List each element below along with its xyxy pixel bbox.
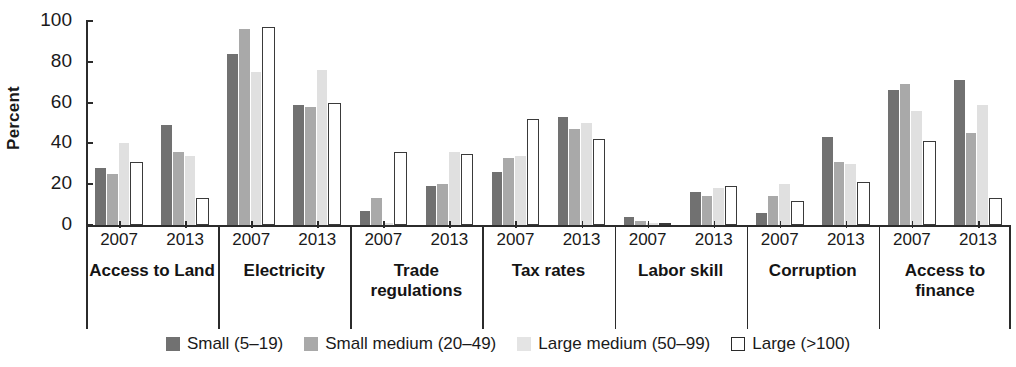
bar xyxy=(857,182,870,225)
bar xyxy=(779,184,790,225)
x-axis-tick-mark xyxy=(383,221,385,228)
bar xyxy=(635,221,646,225)
bar-group-labor-skill xyxy=(615,21,747,225)
x-axis-year-label: 2013 xyxy=(284,230,350,250)
bar xyxy=(624,217,635,225)
bar xyxy=(659,223,672,225)
bar-cluster xyxy=(558,21,606,225)
bar xyxy=(923,141,936,225)
category-label-line1: Tax rates xyxy=(482,261,614,281)
bar xyxy=(845,164,856,225)
bar xyxy=(492,172,503,225)
bar xyxy=(119,143,130,225)
category-label: Electricity xyxy=(218,261,350,281)
x-axis-year-label: 2007 xyxy=(218,230,284,250)
category-block-trade-regulations: 20072013Traderegulations xyxy=(350,227,482,329)
legend-item: Large medium (50–99) xyxy=(517,334,710,354)
bar xyxy=(371,198,382,225)
bar xyxy=(161,125,172,225)
category-label-line1: Electricity xyxy=(218,261,350,281)
bar-cluster xyxy=(426,21,474,225)
category-block-corruption: 20072013Corruption xyxy=(747,227,879,329)
legend-swatch-icon xyxy=(304,337,318,351)
x-axis-tick-mark xyxy=(978,221,980,228)
bar-subgroup-2013 xyxy=(152,21,218,225)
bar-cluster xyxy=(954,21,1002,225)
subcategory-labels: 20072013 xyxy=(350,230,482,250)
bar-subgroup-2007 xyxy=(350,21,416,225)
plot-area: 100806040200 xyxy=(86,21,1011,225)
legend-item: Small medium (20–49) xyxy=(304,334,496,354)
bar xyxy=(360,211,371,225)
x-axis-tick-mark xyxy=(780,221,782,228)
bar xyxy=(185,156,196,225)
bar xyxy=(581,123,592,225)
bar-subgroup-2013 xyxy=(813,21,879,225)
category-label-line1: Access to Land xyxy=(86,261,218,281)
bar xyxy=(977,105,988,225)
category-label: Corruption xyxy=(747,261,879,281)
category-label: Access to Land xyxy=(86,261,218,281)
bar-cluster xyxy=(690,21,738,225)
bar-cluster xyxy=(360,21,408,225)
x-axis-year-label: 2007 xyxy=(879,230,945,250)
bar-cluster xyxy=(227,21,275,225)
x-axis-year-label: 2007 xyxy=(747,230,813,250)
bar xyxy=(293,105,304,225)
bar-group-corruption xyxy=(747,21,879,225)
x-axis-tick-mark xyxy=(912,221,914,228)
bar xyxy=(558,117,569,225)
bar xyxy=(394,152,407,225)
bar xyxy=(317,70,328,225)
x-axis-year-label: 2007 xyxy=(482,230,548,250)
bar-cluster xyxy=(756,21,804,225)
bar-subgroup-2013 xyxy=(416,21,482,225)
y-axis-tick-label: 0 xyxy=(61,213,72,235)
bar xyxy=(593,139,606,225)
bar xyxy=(328,103,341,225)
bar-cluster xyxy=(888,21,936,225)
bar xyxy=(527,119,540,225)
bar xyxy=(791,201,804,225)
legend-swatch-icon xyxy=(517,337,531,351)
bar-group-trade-regulations xyxy=(350,21,482,225)
y-axis-tick-label: 40 xyxy=(51,131,72,153)
x-axis-tick-mark xyxy=(515,221,517,228)
bar-subgroup-2007 xyxy=(86,21,152,225)
legend-label: Large (>100) xyxy=(752,334,850,354)
y-axis-tick-label: 80 xyxy=(51,50,72,72)
bar xyxy=(713,188,724,225)
bar xyxy=(690,192,701,225)
bar xyxy=(251,72,262,225)
bar xyxy=(196,198,209,225)
bar xyxy=(725,186,738,225)
category-block-electricity: 20072013Electricity xyxy=(218,227,350,329)
subcategory-labels: 20072013 xyxy=(218,230,350,250)
bar-subgroup-2013 xyxy=(548,21,614,225)
x-axis-year-label: 2013 xyxy=(549,230,615,250)
y-axis-tick-label: 60 xyxy=(51,91,72,113)
bar xyxy=(227,54,238,225)
subcategory-labels: 20072013 xyxy=(747,230,879,250)
x-axis-year-label: 2013 xyxy=(416,230,482,250)
x-axis-year-label: 2007 xyxy=(86,230,152,250)
legend-label: Small (5–19) xyxy=(187,334,283,354)
bar xyxy=(449,152,460,225)
legend-swatch-icon xyxy=(731,337,745,351)
bar xyxy=(834,162,845,225)
bar-cluster xyxy=(492,21,540,225)
bar-subgroup-2013 xyxy=(945,21,1011,225)
category-label-line1: Access to xyxy=(879,261,1011,281)
category-label: Traderegulations xyxy=(350,261,482,301)
bar xyxy=(503,158,514,225)
x-axis-tick-mark xyxy=(846,221,848,228)
category-label-line1: Corruption xyxy=(747,261,879,281)
x-axis-tick-mark xyxy=(648,221,650,228)
y-axis-tick-label: 100 xyxy=(40,9,72,31)
x-axis-tick-mark xyxy=(582,221,584,228)
bar xyxy=(966,133,977,225)
bar-subgroup-2013 xyxy=(681,21,747,225)
bar xyxy=(900,84,911,225)
category-label: Tax rates xyxy=(482,261,614,281)
bar xyxy=(888,90,899,225)
